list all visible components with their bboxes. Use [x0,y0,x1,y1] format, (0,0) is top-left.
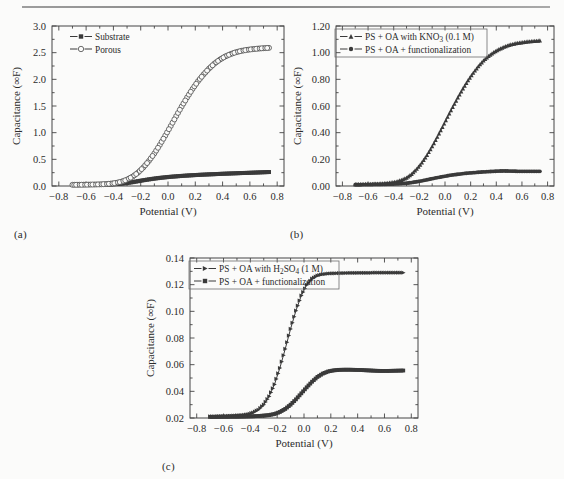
chart-b: −0.8−0.6−0.4−0.20.00.20.40.60.80.000.200… [288,14,560,226]
svg-text:Capacitance (∞F): Capacitance (∞F) [144,299,157,377]
svg-text:1.20: 1.20 [312,21,330,32]
svg-text:PS + OA with KNO3 (0.1 M): PS + OA with KNO3 (0.1 M) [365,32,474,44]
chart-c: −0.8−0.6−0.4−0.20.00.20.40.60.80.020.040… [140,246,426,458]
svg-text:1.00: 1.00 [312,47,330,58]
panel-c: −0.8−0.6−0.4−0.20.00.20.40.60.80.020.040… [140,246,426,472]
svg-text:Substrate: Substrate [95,32,130,42]
svg-text:−0.6: −0.6 [214,423,233,434]
svg-text:0.0: 0.0 [33,181,46,192]
svg-text:0.2: 0.2 [324,423,337,434]
svg-text:2.5: 2.5 [33,47,46,58]
svg-text:0.4: 0.4 [351,423,365,434]
svg-text:PS + OA + functionalization: PS + OA + functionalization [365,45,471,55]
panel-a: −0.8−0.6−0.4−0.20.00.20.40.60.80.00.51.0… [6,14,292,240]
panel-b: −0.8−0.6−0.4−0.20.00.20.40.60.80.000.200… [288,14,560,240]
svg-text:−0.4: −0.4 [104,191,124,202]
svg-text:0.14: 0.14 [166,253,185,264]
svg-text:−0.8: −0.8 [49,191,68,202]
svg-text:0.8: 0.8 [541,191,554,202]
svg-text:−0.2: −0.2 [131,191,150,202]
svg-text:−0.2: −0.2 [410,191,429,202]
svg-text:−0.2: −0.2 [268,423,287,434]
svg-text:0.04: 0.04 [166,386,185,397]
svg-text:1.5: 1.5 [33,101,46,112]
svg-text:3.0: 3.0 [33,21,46,32]
svg-text:0.10: 0.10 [166,306,184,317]
svg-text:−0.4: −0.4 [241,423,261,434]
svg-text:0.0: 0.0 [161,191,174,202]
svg-text:−0.6: −0.6 [359,191,378,202]
svg-text:0.6: 0.6 [515,191,528,202]
svg-text:0.40: 0.40 [312,127,330,138]
svg-text:0.08: 0.08 [166,333,184,344]
svg-text:Potential (V): Potential (V) [416,205,473,218]
svg-text:Potential (V): Potential (V) [275,437,332,450]
svg-text:0.6: 0.6 [378,423,391,434]
svg-text:PS + OA + functionalization: PS + OA + functionalization [219,277,325,287]
svg-text:Porous: Porous [95,45,121,55]
svg-text:0.0: 0.0 [297,423,310,434]
panel-b-label: (b) [290,228,303,240]
svg-text:Capacitance (∞F): Capacitance (∞F) [291,67,304,145]
svg-text:0.60: 0.60 [312,101,330,112]
header-rule [22,6,550,8]
svg-text:0.2: 0.2 [464,191,477,202]
svg-text:0.6: 0.6 [243,191,256,202]
svg-text:−0.8: −0.8 [333,191,352,202]
svg-text:−0.6: −0.6 [77,191,96,202]
svg-text:0.20: 0.20 [312,154,330,165]
svg-text:0.8: 0.8 [405,423,418,434]
svg-text:0.2: 0.2 [189,191,202,202]
svg-text:0.06: 0.06 [166,359,184,370]
svg-text:0.0: 0.0 [438,191,451,202]
panel-c-label: (c) [162,460,175,472]
svg-text:PS + OA with H2SO4 (1 M): PS + OA with H2SO4 (1 M) [219,264,323,276]
svg-text:0.02: 0.02 [166,413,184,424]
svg-text:0.4: 0.4 [216,191,230,202]
svg-text:0.8: 0.8 [271,191,284,202]
svg-text:0.4: 0.4 [490,191,504,202]
svg-text:2.0: 2.0 [33,74,46,85]
svg-text:0.00: 0.00 [312,181,330,192]
svg-text:−0.8: −0.8 [187,423,206,434]
panel-a-label: (a) [14,228,27,240]
svg-text:0.12: 0.12 [166,279,184,290]
svg-text:1.0: 1.0 [33,127,46,138]
svg-text:0.5: 0.5 [33,154,46,165]
figure-page: −0.8−0.6−0.4−0.20.00.20.40.60.80.00.51.0… [0,0,564,479]
svg-text:Capacitance (∞F): Capacitance (∞F) [10,67,23,145]
svg-text:−0.4: −0.4 [384,191,404,202]
svg-text:Potential (V): Potential (V) [139,205,196,218]
svg-text:0.80: 0.80 [312,74,330,85]
chart-a: −0.8−0.6−0.4−0.20.00.20.40.60.80.00.51.0… [6,14,292,226]
